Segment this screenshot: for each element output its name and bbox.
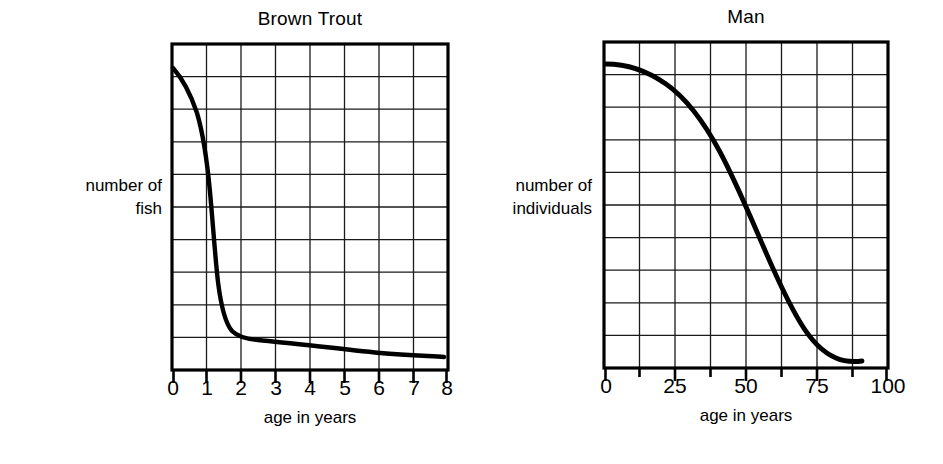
- x-tick-label-trout-8: 8: [441, 376, 453, 400]
- figure-canvas: [0, 0, 943, 464]
- x-tick-label-trout-0: 0: [167, 376, 179, 400]
- x-tick-label-trout-7: 7: [408, 376, 420, 400]
- x-tick-label-man-0: 0: [600, 374, 612, 398]
- x-tick-label-trout-5: 5: [339, 376, 351, 400]
- x-tick-label-man-50: 50: [734, 374, 757, 398]
- x-tick-label-trout-2: 2: [235, 376, 247, 400]
- x-tick-label-man-100: 100: [870, 374, 905, 398]
- y-axis-label-line2: individuals: [452, 197, 592, 220]
- x-axis-label-man: age in years: [604, 406, 888, 426]
- x-axis-label-brown-trout: age in years: [172, 408, 448, 428]
- chart-title-man: Man: [604, 6, 888, 28]
- chart-man: [604, 42, 888, 381]
- chart-title-brown-trout: Brown Trout: [172, 8, 448, 30]
- y-axis-label-brown-trout: number of fish: [10, 174, 162, 220]
- x-tick-label-trout-3: 3: [270, 376, 282, 400]
- x-tick-label-man-75: 75: [805, 374, 828, 398]
- x-tick-label-trout-4: 4: [304, 376, 316, 400]
- x-tick-label-man-25: 25: [663, 374, 686, 398]
- survivorship-curves-figure: Brown Trout Man number of fish number of…: [0, 0, 943, 464]
- x-tick-label-trout-6: 6: [373, 376, 385, 400]
- chart-brown-trout: [172, 44, 448, 383]
- x-tick-label-trout-1: 1: [201, 376, 213, 400]
- y-axis-label-line1: number of: [452, 174, 592, 197]
- survivorship-curve-man: [606, 64, 862, 362]
- survivorship-curve-trout: [173, 68, 444, 357]
- y-axis-label-line2: fish: [10, 197, 162, 220]
- y-axis-label-line1: number of: [10, 174, 162, 197]
- y-axis-label-man: number of individuals: [452, 174, 592, 220]
